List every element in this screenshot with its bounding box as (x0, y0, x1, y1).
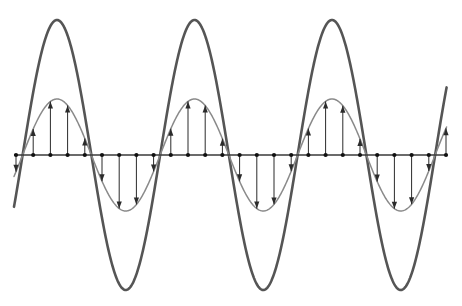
sample-point-dot (324, 153, 328, 157)
sample-point-dot (289, 153, 293, 157)
sample-point-dot (358, 153, 362, 157)
sample-point-dot (152, 153, 156, 157)
sample-point-dot (169, 153, 173, 157)
sample-point-dot (31, 153, 35, 157)
sample-point-dot (66, 153, 70, 157)
sample-point-dot (134, 153, 138, 157)
sample-point-dot (255, 153, 259, 157)
sample-point-dot (14, 153, 18, 157)
sample-point-dot (410, 153, 414, 157)
sample-point-dot (186, 153, 190, 157)
sample-point-dot (306, 153, 310, 157)
sample-point-dot (444, 153, 448, 157)
sample-point-dot (272, 153, 276, 157)
sample-point-dot (220, 153, 224, 157)
figure-canvas (0, 0, 462, 306)
sample-point-dot (117, 153, 121, 157)
sample-point-dot (238, 153, 242, 157)
wave-diagram-svg (0, 0, 462, 306)
background-rect (0, 0, 462, 306)
sample-point-dot (392, 153, 396, 157)
sample-point-dot (341, 153, 345, 157)
sample-point-dot (48, 153, 52, 157)
sample-point-dot (100, 153, 104, 157)
sample-point-dot (427, 153, 431, 157)
sample-point-dot (83, 153, 87, 157)
sample-point-dot (203, 153, 207, 157)
sample-point-dot (375, 153, 379, 157)
